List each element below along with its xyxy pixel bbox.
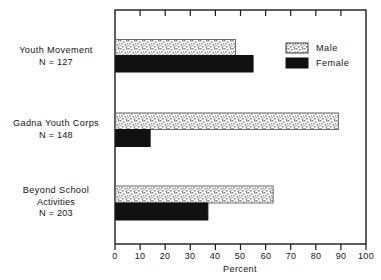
category-name: Gadna Youth Corps [13, 118, 99, 128]
bar-group-gadna-youth-corps [116, 113, 339, 147]
xtick-90: 90 [329, 251, 353, 261]
xtick-20: 20 [153, 251, 177, 261]
category-label-gadna-youth-corps: Gadna Youth Corps N = 148 [0, 118, 112, 141]
male-swatch-icon [286, 43, 308, 53]
bar-female-beyond-school-activities [116, 203, 208, 220]
legend-swatches [286, 43, 308, 68]
xtick-30: 30 [178, 251, 202, 261]
xtick-60: 60 [254, 251, 278, 261]
xtick-50: 50 [228, 251, 252, 261]
bar-male-beyond-school-activities [116, 186, 273, 203]
x-axis-title: Percent [180, 264, 300, 274]
category-sample-size: N = 148 [0, 130, 112, 142]
xtick-100: 100 [354, 251, 378, 261]
bar-group-beyond-school-activities [116, 186, 273, 220]
category-sample-size: N = 203 [0, 208, 112, 220]
female-swatch-icon [286, 58, 308, 68]
xtick-80: 80 [304, 251, 328, 261]
bar-male-gadna-youth-corps [116, 113, 339, 130]
bar-group-youth-movement [116, 40, 253, 73]
bar-female-gadna-youth-corps [116, 130, 150, 147]
bar-male-youth-movement [116, 40, 236, 56]
category-name: Youth Movement [19, 45, 93, 55]
top-axis-ticks [140, 10, 341, 16]
xtick-40: 40 [203, 251, 227, 261]
legend-label-female: Female [316, 58, 349, 68]
category-label-beyond-school-activities: Beyond School Activities N = 203 [0, 185, 112, 220]
bar-chart: Youth Movement N = 127 Gadna Youth Corps… [0, 0, 381, 280]
category-name-line2: Activities [0, 197, 112, 209]
category-sample-size: N = 127 [0, 57, 112, 69]
category-name-line1: Beyond School [23, 185, 89, 195]
xtick-70: 70 [279, 251, 303, 261]
legend-label-male: Male [316, 43, 338, 53]
xtick-0: 0 [103, 251, 127, 261]
xtick-10: 10 [128, 251, 152, 261]
category-label-youth-movement: Youth Movement N = 127 [0, 45, 112, 68]
bottom-axis-ticks [115, 244, 366, 250]
bar-female-youth-movement [116, 56, 253, 73]
